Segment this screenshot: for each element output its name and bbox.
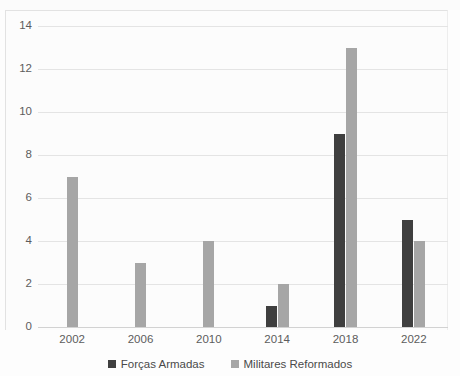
bar-militares-reformados-2018: [346, 48, 357, 328]
gridline: [38, 155, 448, 156]
bar-militares-reformados-2014: [278, 284, 289, 327]
y-axis-tick-label: 6: [2, 192, 32, 204]
chart-legend: Forças ArmadasMilitares Reformados: [0, 358, 460, 370]
gridline: [38, 198, 448, 199]
legend-item[interactable]: Militares Reformados: [231, 358, 353, 370]
top-edge-sliver: [0, 0, 460, 10]
bar-chart: 02468101214 200220062010201420182022 For…: [0, 0, 460, 376]
x-axis-tick-label: 2018: [311, 334, 381, 346]
bar-militares-reformados-2002: [67, 177, 78, 328]
x-axis-tick-label: 2022: [379, 334, 449, 346]
gridline: [38, 69, 448, 70]
gridline: [38, 327, 448, 328]
gridline: [38, 241, 448, 242]
gridline: [38, 26, 448, 27]
legend-label: Forças Armadas: [121, 358, 205, 370]
bar-militares-reformados-2022: [414, 241, 425, 327]
y-axis-tick-label: 8: [2, 149, 32, 161]
legend-label: Militares Reformados: [244, 358, 353, 370]
bar-militares-reformados-2010: [203, 241, 214, 327]
bar-forças-armadas-2018: [334, 134, 345, 328]
x-axis-tick-label: 2002: [37, 334, 107, 346]
y-axis-tick-label: 14: [2, 20, 32, 32]
legend-swatch-icon: [108, 360, 116, 368]
legend-swatch-icon: [231, 360, 239, 368]
x-axis-tick-label: 2010: [174, 334, 244, 346]
gridline: [38, 112, 448, 113]
gridline: [38, 284, 448, 285]
bar-forças-armadas-2022: [402, 220, 413, 328]
y-axis-tick-label: 12: [2, 63, 32, 75]
legend-item[interactable]: Forças Armadas: [108, 358, 205, 370]
bar-militares-reformados-2006: [135, 263, 146, 328]
x-axis-tick-label: 2014: [242, 334, 312, 346]
x-axis-tick-label: 2006: [106, 334, 176, 346]
plot-area: [38, 26, 448, 327]
bar-forças-armadas-2014: [266, 306, 277, 328]
y-axis-tick-label: 2: [2, 278, 32, 290]
y-axis-tick-label: 4: [2, 235, 32, 247]
y-axis-tick-label: 10: [2, 106, 32, 118]
y-axis-tick-label: 0: [2, 321, 32, 333]
